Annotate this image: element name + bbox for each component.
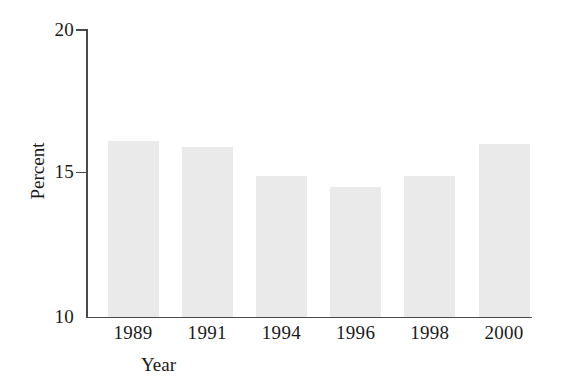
bar-1989 — [108, 141, 159, 317]
x-tick-label-1991: 1991 — [167, 322, 247, 344]
x-tick-label-2000: 2000 — [464, 322, 544, 344]
x-axis-title: Year — [0, 354, 563, 376]
bar-1994 — [256, 176, 307, 317]
bar-chart-figure: Percent 20 15 10 19891991199419961998200… — [0, 0, 563, 389]
x-tick-label-1989: 1989 — [93, 322, 173, 344]
y-tick-label-10: 10 — [14, 306, 74, 328]
bar-1996 — [330, 187, 381, 317]
y-tick-label-15: 15 — [14, 161, 74, 183]
bar-1991 — [182, 147, 233, 317]
x-tick-label-1998: 1998 — [390, 322, 470, 344]
y-tick-label-20: 20 — [14, 19, 74, 41]
x-tick-label-1994: 1994 — [241, 322, 321, 344]
x-axis-tick-labels: 198919911994199619982000 — [86, 322, 532, 352]
x-axis-title-text: Year — [141, 354, 176, 375]
x-tick-label-1996: 1996 — [316, 322, 396, 344]
bar-1998 — [404, 176, 455, 317]
bar-2000 — [479, 144, 530, 317]
plot-area — [86, 29, 532, 317]
